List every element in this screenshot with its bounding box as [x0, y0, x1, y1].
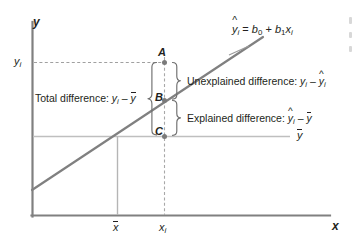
- equation-plus: +: [262, 23, 275, 35]
- unexplained-difference-prefix: Unexplained difference:: [187, 75, 300, 87]
- unexplained-difference-label: Unexplained difference: yi – yi: [187, 76, 326, 89]
- unexplained-difference-term2-subscript: i: [324, 80, 326, 89]
- x-i-tick-subscript: i: [165, 226, 167, 235]
- unexplained-difference-term2: y: [319, 76, 324, 87]
- point-a-label: A: [158, 47, 166, 58]
- point-c-label: C: [155, 126, 163, 137]
- explained-difference-term2: y: [306, 113, 311, 124]
- y-i-tick-subscript: i: [20, 60, 22, 69]
- total-difference-term2: y: [130, 93, 135, 104]
- x-mean-tick-label: x: [113, 222, 119, 233]
- equation-equals: =: [239, 23, 252, 35]
- x-i-tick-label: xi: [159, 222, 166, 235]
- explained-difference-term1: y: [288, 113, 293, 124]
- x-mean-tick-base: x: [113, 222, 119, 233]
- regression-equation-label: yi = b0 + b1xi: [232, 24, 293, 37]
- point-b-label: B: [155, 92, 163, 103]
- y-mean-base: y: [297, 130, 303, 141]
- y-axis-label: y: [33, 16, 40, 28]
- point-a-marker: [162, 60, 167, 65]
- page-edge-fragment-3: [349, 46, 352, 52]
- regression-decomposition-figure: y x yi x xi y yi = b0 + b1xi A B C Total…: [0, 0, 355, 247]
- total-difference-label: Total difference: yi – y: [35, 93, 136, 106]
- equation-x-subscript: i: [291, 28, 293, 37]
- explained-difference-brace: [173, 101, 181, 136]
- y-mean-label: y: [297, 130, 303, 141]
- page-edge-fragment-2: [349, 32, 352, 38]
- total-difference-prefix: Total difference:: [35, 92, 112, 104]
- unexplained-difference-minus: –: [307, 75, 319, 87]
- page-edge-fragment-1: [349, 17, 352, 24]
- explained-difference-minus: –: [295, 112, 307, 124]
- x-axis-label: x: [332, 220, 339, 232]
- explained-difference-label: Explained difference: yi – y: [187, 113, 312, 126]
- total-difference-minus: –: [119, 92, 131, 104]
- y-i-tick-label: yi: [14, 56, 21, 69]
- explained-difference-prefix: Explained difference:: [187, 112, 288, 124]
- equation-yhat: y: [232, 24, 238, 35]
